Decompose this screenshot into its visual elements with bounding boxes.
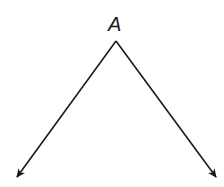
right-ray <box>116 41 216 177</box>
left-ray <box>17 41 116 177</box>
vertex-label-a: A <box>108 14 121 34</box>
